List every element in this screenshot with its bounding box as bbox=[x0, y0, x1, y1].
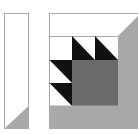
bottom-gray-band bbox=[50, 106, 139, 129]
basket-square bbox=[72, 60, 118, 106]
main-block bbox=[50, 14, 139, 129]
quilt-diagram bbox=[0, 0, 138, 134]
side-strip bbox=[5, 14, 29, 129]
